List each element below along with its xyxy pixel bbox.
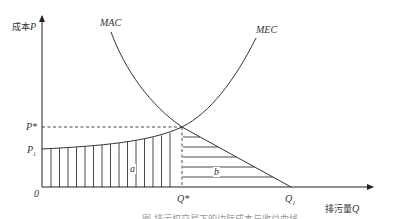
mac-label: MAC <box>100 18 121 28</box>
y-axis-label-var: P <box>30 21 36 32</box>
mac-curve <box>111 32 291 187</box>
q-star-label: Q* <box>177 194 189 204</box>
p-one-sub: 1 <box>33 151 36 157</box>
q-one-label: Q1 <box>285 194 295 206</box>
figure-caption: 图 排污权交易下的边际成本与收益曲线 <box>120 212 320 219</box>
y-axis-label-cn: 成本 <box>12 22 30 32</box>
x-axis-label-cn: 排污量 <box>325 204 352 214</box>
x-axis-label: 排污量Q <box>325 204 359 214</box>
region-a-label: a <box>129 164 136 174</box>
origin-label: 0 <box>34 189 39 199</box>
diagram-canvas <box>0 0 400 219</box>
diagram: 成本P 排污量Q MAC MEC P* P1 0 Q* Q1 a b 图 排污权… <box>0 0 400 219</box>
p-star-label: P* <box>26 122 37 132</box>
y-axis-label: 成本P <box>12 22 36 32</box>
region-b-hatch <box>183 137 273 177</box>
mec-curve <box>42 38 256 149</box>
x-axis-label-var: Q <box>352 203 359 214</box>
region-b-label: b <box>213 167 220 177</box>
mec-label: MEC <box>256 25 277 35</box>
p-one-label: P1 <box>27 145 36 157</box>
region-a-hatch <box>51 133 170 187</box>
q-one-sub: 1 <box>292 200 295 206</box>
